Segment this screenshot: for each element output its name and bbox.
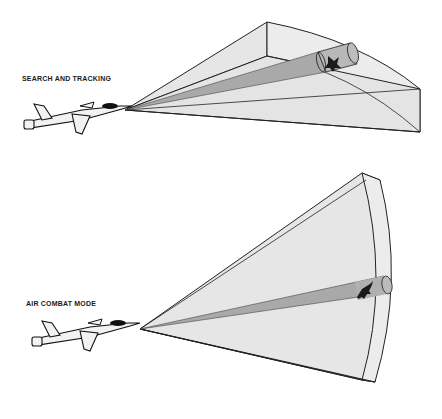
label-air-combat-mode: AIR COMBAT MODE	[26, 300, 96, 307]
radar-modes-diagram	[0, 0, 442, 419]
air-combat-volume	[140, 173, 391, 382]
label-search-and-tracking: SEARCH AND TRACKING	[22, 75, 111, 82]
fighter-jet-icon-combat	[32, 319, 140, 351]
fighter-jet-icon	[24, 102, 132, 134]
